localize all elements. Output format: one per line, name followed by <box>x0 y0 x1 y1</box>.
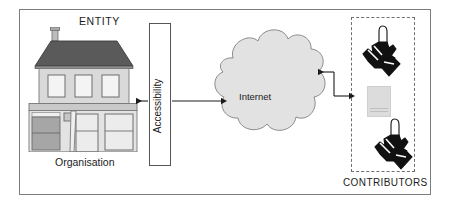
connector-layer <box>0 0 450 212</box>
diagram-canvas: ENTITY Organisation Accessibility Intern… <box>0 0 450 212</box>
contributors-to-internet-arrow <box>318 72 334 96</box>
